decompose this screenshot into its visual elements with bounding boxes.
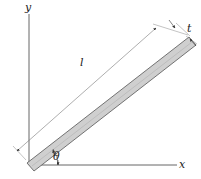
y-axis-label: y bbox=[24, 1, 32, 14]
angle-indicator: θ bbox=[53, 149, 60, 165]
length-label: l bbox=[80, 56, 84, 69]
thickness-label: t bbox=[187, 22, 192, 35]
x-axis-label: x bbox=[179, 158, 186, 171]
length-dimension: l bbox=[13, 24, 188, 160]
bar-centerline bbox=[32, 42, 192, 166]
thickness-arrow-1 bbox=[169, 20, 175, 28]
diagram-canvas: y x l t θ bbox=[0, 0, 201, 179]
extension-line-lower bbox=[13, 146, 26, 160]
angle-label: θ bbox=[53, 150, 60, 163]
